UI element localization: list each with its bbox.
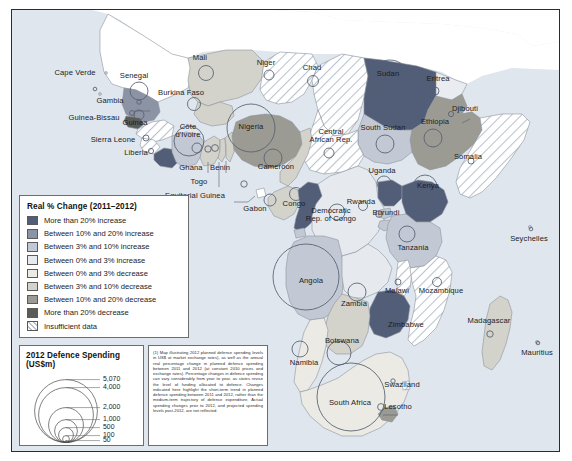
country-label: Madagascar: [468, 317, 511, 325]
legend-row: Between 10% and 20% decrease: [27, 293, 181, 306]
bubble-legend-value: 50: [103, 436, 111, 443]
spending-bubble: [93, 87, 97, 91]
spending-bubble: [241, 181, 247, 187]
bubble-legend-value: 1,000: [103, 415, 120, 422]
legend-row: Between 0% and 3% decrease: [27, 267, 181, 280]
country-label: South Sudan: [360, 124, 405, 132]
country-label: CentralAfrican Rep.: [310, 128, 353, 145]
country-label: Niger: [257, 59, 276, 67]
legend-label: Between 3% and 10% increase: [44, 242, 150, 251]
legend-label: Between 10% and 20% decrease: [44, 295, 156, 304]
country-label-line: d'Ivoire: [175, 131, 200, 139]
country-label: Lesotho: [384, 403, 412, 411]
country-label: Rwanda: [347, 198, 375, 206]
country-label: Somalia: [454, 153, 482, 161]
country-label: Senegal: [120, 72, 149, 80]
country-label: Sierra Leone: [91, 136, 136, 144]
legend-swatch: [27, 282, 38, 292]
country-label: Guinea-Bissau: [68, 114, 119, 122]
country-label: Côted'Ivoire: [175, 123, 200, 140]
country-label-line: African Rep.: [310, 136, 353, 144]
bubble-scale-svg: [26, 371, 139, 451]
choropleth-legend: Real % Change (2011–2012) More than 20% …: [19, 195, 189, 338]
country-label: Uganda: [368, 167, 395, 175]
legend-label: Between 0% and 3% increase: [44, 256, 145, 265]
country-label: Angola: [299, 277, 323, 285]
country-label: Ghana: [179, 164, 202, 172]
legend-row: Between 3% and 10% increase: [27, 240, 181, 253]
choropleth-legend-title: Real % Change (2011–2012): [27, 202, 181, 211]
bubble-size-legend: 2012 Defence Spending (US$m): [19, 345, 144, 446]
legend-row: Between 10% and 20% increase: [27, 227, 181, 240]
country-label: Kenya: [417, 182, 439, 190]
legend-label: Between 0% and 3% decrease: [44, 269, 148, 278]
map-figure: Cape VerdeSenegalGambiaGuinea-BissauGuin…: [0, 0, 572, 461]
legend-label: More than 20% decrease: [44, 308, 129, 317]
bubble-legend-value: 500: [103, 423, 115, 430]
country-label: Cameroon: [258, 163, 294, 171]
country-label: Tanzania: [397, 244, 428, 252]
map-note-text: (1) Map illustrating 2012 planned defenc…: [153, 350, 263, 413]
bubble-legend-value: 2,000: [103, 403, 120, 410]
legend-swatch: [27, 269, 38, 279]
legend-swatch: [27, 242, 38, 252]
country-label: Malawi: [385, 287, 409, 295]
country-label: Liberia: [124, 149, 148, 157]
country-label: Cape Verde: [54, 69, 95, 77]
bubble-legend-value: 4,000: [103, 383, 120, 390]
country-label: Zimbabwe: [388, 321, 424, 329]
map-note-box: (1) Map illustrating 2012 planned defenc…: [148, 345, 268, 446]
bubble-scale-graphic: 5,0704,0002,0001,00050010050: [26, 371, 139, 451]
country-label: Burkina Faso: [158, 89, 204, 97]
country-label: Togo: [191, 178, 208, 186]
legend-label: More than 20% increase: [44, 216, 126, 225]
country-label-line: Rep. of Congo: [306, 215, 356, 223]
legend-label: Insufficient data: [44, 322, 97, 331]
bubble-legend-title: 2012 Defence Spending (US$m): [26, 351, 137, 369]
country-label: Chad: [303, 64, 322, 72]
country-label: South Africa: [329, 399, 371, 407]
country-label: Zambia: [341, 300, 367, 308]
country-label: Djibouti: [452, 105, 478, 113]
legend-row: Insufficient data: [27, 320, 181, 333]
country-label: Guinea: [122, 119, 147, 127]
legend-swatch: [27, 255, 38, 265]
legend-label: Between 3% and 10% decrease: [44, 282, 152, 291]
legend-row: Between 3% and 10% decrease: [27, 280, 181, 293]
country-label: Gambia: [96, 97, 123, 105]
map-frame: Cape VerdeSenegalGambiaGuinea-BissauGuin…: [11, 9, 560, 452]
legend-row: More than 20% increase: [27, 214, 181, 227]
country-label: Nigeria: [239, 123, 264, 131]
legend-row: More than 20% decrease: [27, 306, 181, 319]
country-label: Ethiopia: [421, 118, 449, 126]
legend-swatch: [27, 229, 38, 239]
country-label: Sudan: [377, 70, 399, 78]
country-label: DemocraticRep. of Congo: [306, 207, 356, 224]
country-label: Swaziland: [384, 381, 420, 389]
country-label: Congo: [283, 200, 306, 208]
country-label: Mali: [193, 54, 207, 62]
legend-label: Between 10% and 20% increase: [44, 229, 154, 238]
legend-swatch: [27, 308, 38, 318]
bubble-legend-value: 5,070: [103, 375, 120, 382]
country-label: Benin: [210, 164, 230, 172]
country-label: Seychelles: [510, 235, 548, 243]
legend-swatch: [27, 216, 38, 226]
country-label: Botswana: [325, 337, 359, 345]
country-label: Gabon: [243, 205, 266, 213]
country-label: Eritrea: [426, 75, 449, 83]
country-label: Burundi: [373, 209, 400, 217]
country-label: Mozambique: [419, 287, 463, 295]
legend-swatch: [27, 295, 38, 305]
legend-swatch: [27, 321, 38, 331]
country-label: Mauritius: [521, 349, 553, 357]
country-label: Namibia: [290, 359, 319, 367]
legend-row: Between 0% and 3% increase: [27, 254, 181, 267]
